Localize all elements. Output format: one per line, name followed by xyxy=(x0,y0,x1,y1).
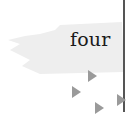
label-four: four xyxy=(70,28,111,50)
triangle-right-icon xyxy=(72,86,81,98)
triangle-right-icon xyxy=(95,102,104,114)
brush-stroke-background xyxy=(0,0,132,123)
triangle-right-icon xyxy=(88,70,97,82)
triangle-right-icon xyxy=(117,94,126,106)
